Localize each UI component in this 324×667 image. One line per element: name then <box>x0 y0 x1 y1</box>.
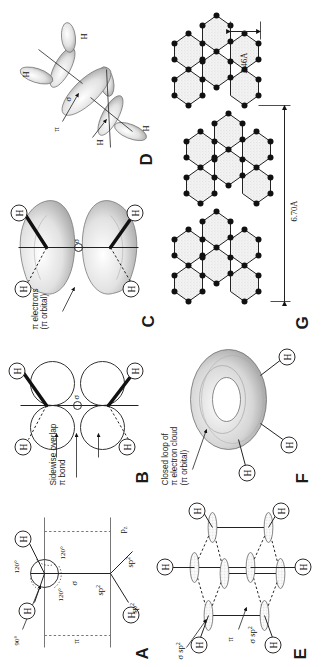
panel-b-caption: Sidewise overlap π bond <box>48 399 67 485</box>
panel-d: D <box>6 7 166 167</box>
panel-d-hydrogen-4: H <box>140 125 150 131</box>
sigma-sp2-top-label: σ sp2 <box>174 642 185 659</box>
panel-d-pi-label: π <box>50 127 60 131</box>
panel-e-pi-label: π <box>224 637 234 641</box>
panel-d-hydrogen-1: H <box>94 139 104 145</box>
panel-c-sigma-label: σ <box>70 238 80 243</box>
panel-d-hydrogen-2: H <box>20 71 30 77</box>
panel-e-hydrogen-1: H <box>156 558 173 575</box>
sigma-sp2-bottom-label: σ sp2 <box>246 626 257 643</box>
panel-a-hydrogen-1: H <box>18 602 35 619</box>
panel-c: C H H H <box>6 181 166 327</box>
panel-b-sigma-label: σ <box>70 394 80 399</box>
panel-b-hydrogen-3: H <box>118 438 135 455</box>
panel-c-hydrogen-2: H <box>14 280 31 297</box>
rotated-figure-canvas: A <box>0 0 324 667</box>
panel-e-hydrogen-2: H <box>188 502 205 519</box>
panel-e-drawing <box>160 499 318 659</box>
panel-f-hydrogen-3: H <box>238 464 255 481</box>
angle-120-left: 120° <box>56 588 64 601</box>
panel-d-hydrogen-3: H <box>78 33 88 39</box>
panel-e: E <box>160 499 318 659</box>
pz-label: pz <box>116 526 128 533</box>
panel-b: B H H <box>6 347 158 483</box>
sp2-label-1: sp2 <box>94 584 105 595</box>
panel-c-hydrogen-3: H <box>122 280 139 297</box>
figure-page: A <box>0 0 324 667</box>
panel-g: G <box>166 5 320 331</box>
panel-f-caption: Closed loop of π electron cloud (π orbit… <box>160 395 188 485</box>
panel-d-sigma-label: σ <box>62 96 72 101</box>
panel-f-hydrogen-2: H <box>278 348 295 365</box>
panel-d-drawing <box>6 7 166 167</box>
dimension-6-70A: 6.70Å <box>288 200 298 221</box>
panel-e-hydrogen-5: H <box>272 502 289 519</box>
panel-f: F H H H Closed loop of π electron cloud … <box>162 341 318 483</box>
dimension-2-46A: 2.46Å <box>238 52 248 73</box>
angle-120-top: 120° <box>12 560 20 573</box>
panel-c-hydrogen-4: H <box>126 204 143 221</box>
panel-c-hydrogen-1: H <box>10 204 27 221</box>
sigma-label: σ <box>68 580 78 585</box>
angle-90: 90° <box>12 635 20 645</box>
pi-label: π <box>70 639 80 643</box>
panel-f-hydrogen-1: H <box>280 436 297 453</box>
panel-a-hydrogen-2: H <box>14 530 31 547</box>
sp2-label-3: sp2 <box>124 556 135 567</box>
panel-e-hydrogen-6: H <box>264 636 281 653</box>
panel-e-hydrogen-3: H <box>190 636 207 653</box>
panel-b-hydrogen-1: H <box>8 362 25 379</box>
panel-a-drawing <box>6 509 158 659</box>
sp2-label-2: sp2 <box>128 602 139 613</box>
panel-a: A <box>6 509 158 659</box>
panel-e-hydrogen-4: H <box>294 558 311 575</box>
panel-b-hydrogen-4: H <box>126 362 143 379</box>
panel-c-caption: π electrons (π orbital) <box>30 251 49 329</box>
angle-120-right: 120° <box>58 546 66 559</box>
panel-b-hydrogen-2: H <box>14 438 31 455</box>
